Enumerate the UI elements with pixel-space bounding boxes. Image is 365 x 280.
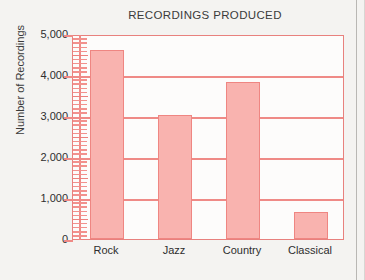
y-axis-major-tick	[64, 35, 73, 37]
y-axis-tick-label: 3,000	[12, 110, 68, 122]
bars-layer	[73, 36, 343, 239]
y-axis-tick-label: 1,000	[12, 192, 68, 204]
y-axis-major-tick	[64, 117, 73, 119]
x-axis-tick-label: Classical	[260, 244, 360, 256]
bar	[90, 50, 124, 239]
chart-figure: RECORDINGS PRODUCED Number of Recordings…	[0, 0, 365, 280]
bar	[294, 212, 328, 239]
chart-title: RECORDINGS PRODUCED	[70, 9, 340, 21]
y-axis-tick-label: 5,000	[12, 28, 68, 40]
y-axis-major-tick	[64, 240, 73, 242]
y-axis-major-tick	[64, 158, 73, 160]
y-axis-major-tick	[64, 76, 73, 78]
y-axis-major-tick	[64, 199, 73, 201]
page-edge-rule	[356, 0, 357, 280]
bar	[158, 115, 192, 239]
bar	[226, 82, 260, 239]
y-axis-tick-label: 4,000	[12, 69, 68, 81]
y-axis-tick-label: 2,000	[12, 151, 68, 163]
plot-area	[72, 35, 344, 240]
